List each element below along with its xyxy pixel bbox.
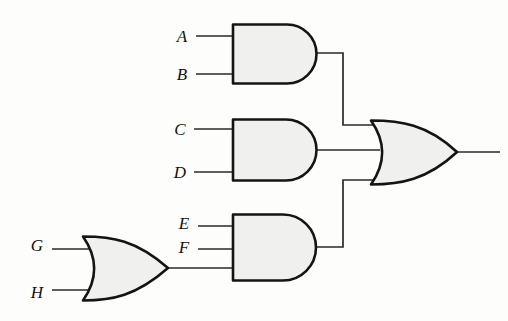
and-gate-bottom bbox=[233, 215, 316, 281]
or-gate-output bbox=[371, 121, 457, 185]
and-gate-top bbox=[233, 25, 317, 84]
wire-and3-to-or-out bbox=[314, 180, 374, 247]
input-label-b: B bbox=[177, 66, 188, 83]
input-label-e: E bbox=[179, 215, 190, 232]
input-label-a: A bbox=[177, 28, 188, 45]
or-gate-lower-left bbox=[83, 237, 168, 301]
and-gate-middle bbox=[233, 120, 316, 181]
input-label-h: H bbox=[31, 284, 43, 301]
input-label-f: F bbox=[179, 239, 190, 256]
wire-and1-to-or-out bbox=[314, 53, 374, 125]
input-label-c: C bbox=[174, 121, 186, 138]
input-label-d: D bbox=[174, 164, 186, 181]
circuit-canvas bbox=[0, 0, 508, 321]
logic-circuit-diagram: A B C D E F G H bbox=[0, 0, 508, 321]
input-label-g: G bbox=[31, 237, 43, 254]
